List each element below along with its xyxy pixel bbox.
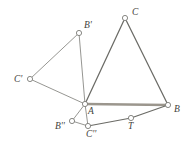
vertex-node-Bprime[interactable] <box>76 30 81 35</box>
figure-canvas <box>0 0 190 148</box>
edge-A-B <box>85 104 168 105</box>
geometry-figure: CB'C'ABTC''B'' <box>0 0 190 148</box>
edges-layer <box>30 18 168 126</box>
vertex-label-Bdbl: B'' <box>55 122 65 132</box>
edge-A-Bprime <box>79 33 85 104</box>
vertex-node-B[interactable] <box>165 102 170 107</box>
vertex-node-Bdbl[interactable] <box>69 118 74 123</box>
vertex-node-T[interactable] <box>128 115 133 120</box>
vertex-node-A[interactable] <box>82 101 87 106</box>
vertex-label-A: A <box>88 107 94 117</box>
vertex-label-T: T <box>128 122 133 132</box>
vertex-node-Cprime[interactable] <box>27 76 32 81</box>
edge-Cdbl-T <box>88 118 131 126</box>
edge-A-C <box>85 18 125 104</box>
edge-C-B <box>125 18 168 105</box>
edge-A-Bdbl <box>72 104 85 121</box>
vertex-node-Cdbl[interactable] <box>85 123 90 128</box>
vertex-label-Bprime: B' <box>84 21 92 31</box>
edge-Cprime-A <box>30 79 85 104</box>
vertex-label-C: C <box>132 8 138 18</box>
vertex-node-C[interactable] <box>122 15 127 20</box>
vertex-label-Cdbl: C'' <box>86 130 96 140</box>
edge-T-B <box>131 105 168 118</box>
vertex-label-Cprime: C' <box>14 75 22 85</box>
vertex-label-B: B <box>174 105 180 115</box>
edge-Bprime-Cprime <box>30 33 79 79</box>
